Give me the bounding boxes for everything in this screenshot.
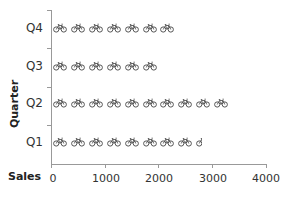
bicycle-icon — [71, 137, 89, 149]
y-tick — [47, 125, 51, 126]
bicycle-icon-partial — [214, 98, 230, 110]
bicycle-icon — [107, 137, 125, 149]
bicycle-icon — [143, 23, 161, 35]
x-tick-label: 4000 — [252, 172, 280, 185]
bicycle-icon — [107, 61, 125, 73]
bicycle-icon — [125, 137, 143, 149]
pictograph-bar-q1 — [53, 137, 202, 149]
bicycle-icon — [196, 98, 214, 110]
x-tick — [158, 164, 159, 168]
y-tick-label-q3: Q3 — [26, 59, 43, 73]
bicycle-icon — [89, 98, 107, 110]
bicycle-icon — [160, 98, 178, 110]
bicycle-icon — [178, 137, 196, 149]
pictograph-bar-q4 — [53, 23, 178, 35]
pictograph-bar-q2 — [53, 98, 230, 110]
x-tick — [105, 164, 106, 168]
y-tick — [47, 87, 51, 88]
bicycle-icon — [125, 23, 143, 35]
bicycle-icon — [89, 137, 107, 149]
bicycle-icon — [178, 98, 196, 110]
bicycle-icon — [71, 61, 89, 73]
bicycle-icon — [53, 23, 71, 35]
bicycle-icon — [89, 61, 107, 73]
x-tick-label: 2000 — [145, 172, 173, 185]
x-tick — [51, 164, 52, 168]
bicycle-icon — [160, 137, 178, 149]
bicycle-icon — [53, 98, 71, 110]
x-tick-label: 3000 — [199, 172, 227, 185]
bicycle-icon-partial — [160, 23, 178, 35]
bicycle-icon — [107, 98, 125, 110]
bicycle-icon — [71, 98, 89, 110]
y-axis-title: Quarter — [8, 80, 21, 128]
bicycle-icon — [53, 137, 71, 149]
x-axis-title: Sales — [8, 170, 41, 183]
bicycle-icon — [89, 23, 107, 35]
y-tick — [47, 10, 51, 11]
bicycle-icon — [143, 98, 161, 110]
x-tick — [212, 164, 213, 168]
y-tick — [47, 48, 51, 49]
bicycle-icon — [143, 137, 161, 149]
pictograph-bar-q3 — [53, 61, 160, 73]
y-tick-label-q4: Q4 — [26, 21, 43, 35]
bicycle-icon-partial — [196, 137, 202, 149]
bicycle-icon — [53, 61, 71, 73]
y-axis — [51, 10, 52, 164]
y-tick-label-q1: Q1 — [26, 135, 43, 149]
x-tick — [266, 164, 267, 168]
bicycle-icon — [71, 23, 89, 35]
bicycle-icon — [107, 23, 125, 35]
bicycle-icon — [125, 98, 143, 110]
x-tick-label: 1000 — [92, 172, 120, 185]
x-axis — [51, 164, 267, 165]
bicycle-icon — [143, 61, 161, 73]
x-tick-label: 0 — [50, 172, 57, 185]
y-tick-label-q2: Q2 — [26, 96, 43, 110]
bicycle-icon — [125, 61, 143, 73]
